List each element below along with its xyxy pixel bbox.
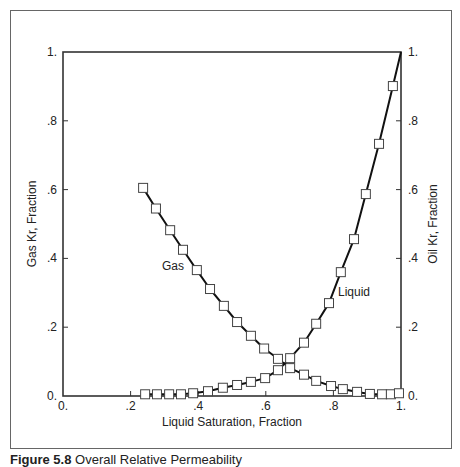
square-marker xyxy=(219,301,228,310)
square-marker xyxy=(233,318,242,327)
square-marker xyxy=(286,354,295,363)
square-marker xyxy=(273,354,282,363)
figure-number: Figure 5.8 xyxy=(10,452,71,467)
square-marker xyxy=(361,190,370,199)
x-tick-label: .8 xyxy=(328,399,338,413)
plot-area-border xyxy=(63,52,401,396)
left-y-axis-title: Gas Kr, Fraction xyxy=(25,181,39,268)
data-series xyxy=(139,52,404,399)
left-y-tick-label: .6 xyxy=(47,183,57,197)
square-marker xyxy=(233,380,242,389)
square-marker xyxy=(246,331,255,340)
liquid-series xyxy=(141,52,401,399)
left-y-tick-label: 0. xyxy=(47,389,57,403)
square-marker xyxy=(151,204,160,213)
right-y-tick-label: .8 xyxy=(408,114,418,128)
right-y-tick-label: 0. xyxy=(408,389,418,403)
square-marker xyxy=(260,344,269,353)
right-y-tick-label: 1. xyxy=(408,45,418,59)
figure-caption: Figure 5.8 Overall Relative Permeability xyxy=(10,452,242,467)
figure-caption-text: Overall Relative Permeability xyxy=(75,452,242,467)
square-marker xyxy=(299,370,308,379)
right-y-tick-label: .4 xyxy=(408,251,418,265)
x-tick-label: 1. xyxy=(396,399,406,413)
square-marker xyxy=(139,183,148,192)
liquid-curve xyxy=(145,52,401,394)
square-marker xyxy=(286,364,295,373)
right-y-tick-label: .2 xyxy=(408,320,418,334)
left-y-tick-label: .4 xyxy=(47,251,57,265)
square-marker xyxy=(336,268,345,277)
square-marker xyxy=(273,366,282,375)
square-marker xyxy=(206,285,215,294)
x-tick-label: .2 xyxy=(126,399,136,413)
square-marker xyxy=(350,235,359,244)
square-marker xyxy=(325,299,334,308)
square-marker xyxy=(178,245,187,254)
square-marker xyxy=(189,389,198,398)
plot-axes xyxy=(63,52,401,396)
square-marker xyxy=(312,319,321,328)
square-marker xyxy=(312,376,321,385)
square-marker xyxy=(165,390,174,399)
x-tick-label: .4 xyxy=(193,399,203,413)
square-marker xyxy=(204,387,213,396)
right-y-tick-label: .6 xyxy=(408,183,418,197)
x-tick-label: 0. xyxy=(58,399,68,413)
square-marker xyxy=(141,390,150,399)
square-marker xyxy=(353,387,362,396)
square-marker xyxy=(375,139,384,148)
square-marker xyxy=(388,82,397,91)
axis-ticks: 0.0.0..2.2.2.4.4.4.6.6.6.8.8.81.1.1. xyxy=(47,45,418,413)
square-marker xyxy=(327,382,336,391)
square-marker xyxy=(394,389,403,398)
square-marker xyxy=(299,338,308,347)
square-marker xyxy=(218,383,227,392)
liquid-curve-label: Liquid xyxy=(338,285,370,299)
square-marker xyxy=(261,374,270,383)
left-y-tick-label: .8 xyxy=(47,114,57,128)
right-y-axis-title: Oil Kr, Fraction xyxy=(426,184,440,263)
x-axis-title: Liquid Saturation, Fraction xyxy=(162,415,302,429)
square-marker xyxy=(152,390,161,399)
square-marker xyxy=(365,389,374,398)
gas-curve-label: Gas xyxy=(162,259,184,273)
square-marker xyxy=(192,266,201,275)
square-marker xyxy=(166,226,175,235)
x-tick-label: .6 xyxy=(261,399,271,413)
square-marker xyxy=(246,377,255,386)
square-marker xyxy=(338,385,347,394)
left-y-tick-label: .2 xyxy=(47,320,57,334)
square-marker xyxy=(378,390,387,399)
square-marker xyxy=(176,390,185,399)
left-y-tick-label: 1. xyxy=(47,45,57,59)
